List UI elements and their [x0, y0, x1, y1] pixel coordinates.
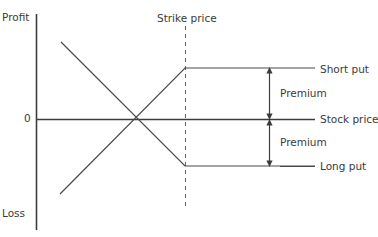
premium-label-lower: Premium — [280, 137, 327, 148]
strike-price-label: Strike price — [157, 13, 217, 24]
short-put-label: Short put — [320, 64, 369, 75]
stock-price-label: Stock price — [320, 114, 378, 125]
short-put-curve — [60, 68, 315, 194]
premium-arrow-upper — [266, 67, 272, 120]
premium-label-upper: Premium — [280, 88, 327, 99]
long-put-label: Long put — [320, 161, 366, 172]
axis-origin-label: 0 — [24, 113, 31, 124]
long-put-curve — [61, 42, 315, 166]
axis-label-loss: Loss — [2, 208, 25, 219]
payoff-diagram: Profit Loss 0 Strike price Short put Sto… — [0, 0, 378, 237]
premium-arrow-lower — [266, 119, 272, 167]
axis-label-profit: Profit — [2, 12, 29, 23]
